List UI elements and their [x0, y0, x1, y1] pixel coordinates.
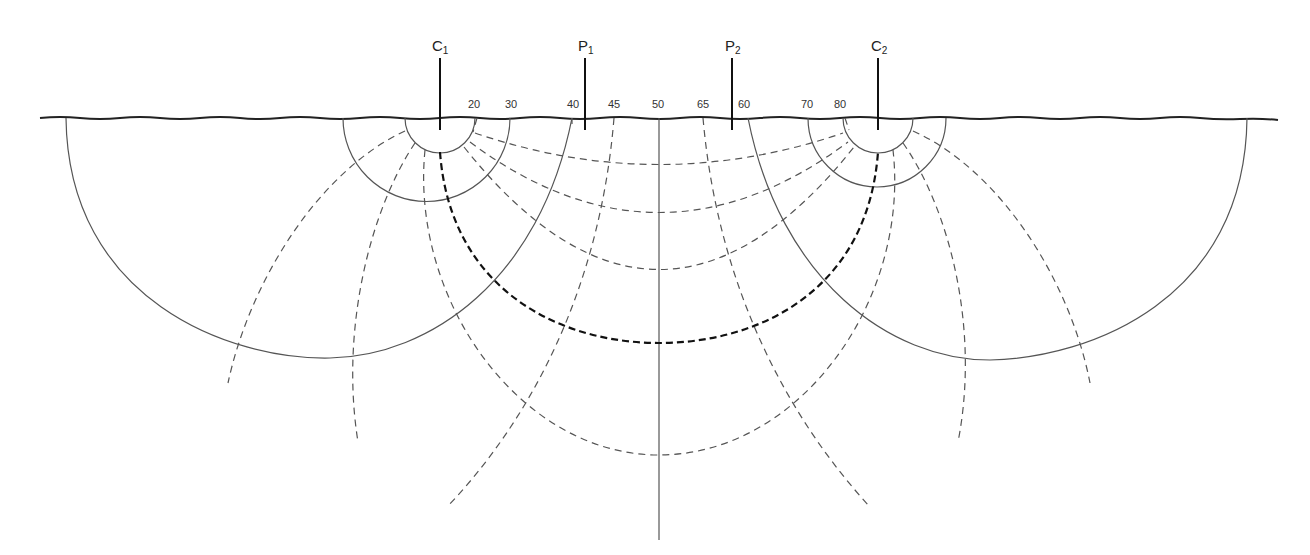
surface-label-50: 50: [652, 99, 664, 110]
surface-label-60: 60: [738, 99, 750, 110]
surface-label-30: 30: [505, 99, 517, 110]
current-line-c1-outer-1: [228, 131, 405, 383]
equipotential-c2-large: [748, 118, 1247, 360]
current-line-45: [447, 118, 614, 507]
surface-label-70: 70: [801, 99, 813, 110]
surface-label-20: 20: [468, 99, 480, 110]
current-line-c1-outer-2: [353, 143, 415, 442]
current-line-65: [703, 118, 870, 507]
surface-label-40: 40: [567, 99, 579, 110]
electrode-label-c1: C1: [432, 38, 448, 58]
resistivity-field-diagram: [0, 0, 1310, 555]
equipotential-lines: [66, 35, 1247, 541]
electrode-label-c2: C2: [871, 38, 887, 58]
electrode-label-p2: P2: [725, 38, 741, 58]
equipotential-c1-large: [66, 118, 572, 358]
surface-label-45: 45: [608, 99, 620, 110]
surface-label-65: 65: [697, 99, 709, 110]
surface-label-80: 80: [834, 99, 846, 110]
current-line-c2-outer-2: [903, 143, 965, 442]
electrode-label-p1: P1: [578, 38, 594, 58]
current-line-c2-outer-1: [913, 131, 1090, 383]
